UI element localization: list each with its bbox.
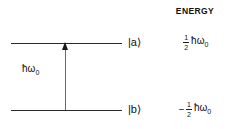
- energy-column-header: ENERGY: [168, 6, 222, 17]
- fraction-denominator-lower: 2: [186, 111, 192, 119]
- energy-omega-subscript-upper: 0: [204, 41, 208, 48]
- fraction-numerator-lower: 1: [186, 101, 192, 109]
- energy-expression-lower: ħω0: [193, 102, 211, 118]
- fraction-numerator-upper: 1: [183, 34, 189, 42]
- energy-value-lower: −12ħω0: [168, 101, 222, 118]
- state-label-lower: |b⟩: [128, 103, 141, 116]
- up-arrow-icon: [62, 42, 68, 50]
- transition-arrow-shaft: [65, 44, 66, 110]
- state-label-upper: |a⟩: [128, 36, 141, 49]
- energy-expression-upper: ħω0: [190, 35, 208, 51]
- energy-level-line-lower: [11, 110, 122, 111]
- fraction-one-half-lower: 12: [185, 101, 193, 118]
- energy-level-diagram: ENERGY ħω0 |a⟩ |b⟩ 12ħω0 −12ħω0: [0, 0, 227, 129]
- transition-energy-label: ħω0: [22, 62, 39, 79]
- fraction-denominator-upper: 2: [183, 44, 189, 52]
- fraction-one-half-upper: 12: [182, 34, 190, 51]
- energy-value-upper: 12ħω0: [168, 34, 222, 51]
- transition-label-omega-subscript: 0: [35, 69, 39, 76]
- energy-omega-subscript-lower: 0: [207, 108, 211, 115]
